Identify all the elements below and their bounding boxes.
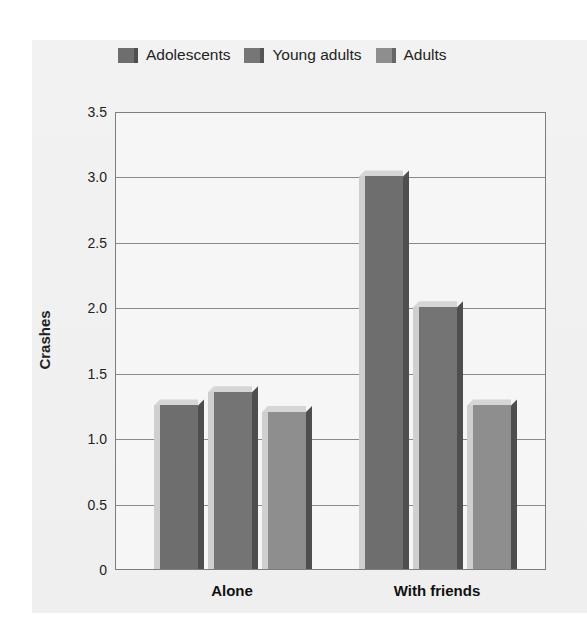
legend-swatch-icon bbox=[244, 48, 264, 63]
y-axis-label: Crashes bbox=[36, 310, 53, 369]
legend: Adolescents Young adults Adults bbox=[118, 43, 447, 67]
gridline bbox=[116, 308, 545, 309]
y-tick-label: 0 bbox=[67, 562, 107, 578]
bar-alone-young-adults bbox=[208, 386, 258, 569]
legend-label: Adults bbox=[404, 46, 447, 64]
bar-face bbox=[160, 405, 198, 569]
y-tick-label: 1.0 bbox=[67, 431, 107, 447]
y-tick-label: 1.5 bbox=[67, 366, 107, 382]
legend-item-adolescents: Adolescents bbox=[118, 46, 230, 64]
bar-with-friends-adolescents bbox=[359, 170, 409, 569]
bar-face bbox=[268, 412, 306, 569]
legend-label: Adolescents bbox=[146, 46, 230, 64]
legend-swatch-icon bbox=[118, 48, 138, 63]
bar-with-friends-adults bbox=[467, 399, 517, 569]
legend-label: Young adults bbox=[272, 46, 361, 64]
x-tick-label: With friends bbox=[394, 582, 481, 599]
y-tick-label: 3.5 bbox=[67, 104, 107, 120]
bar-side bbox=[457, 301, 463, 569]
bar-face bbox=[365, 176, 403, 569]
x-tick-label: Alone bbox=[211, 582, 253, 599]
legend-item-young-adults: Young adults bbox=[244, 46, 361, 64]
bar-side bbox=[252, 386, 258, 569]
bar-face bbox=[419, 307, 457, 569]
legend-swatch-icon bbox=[376, 48, 396, 63]
y-tick-label: 0.5 bbox=[67, 497, 107, 513]
y-tick-label: 2.5 bbox=[67, 235, 107, 251]
bar-side bbox=[306, 406, 312, 569]
bar-with-friends-young-adults bbox=[413, 301, 463, 569]
bar-side bbox=[198, 399, 204, 569]
gridline bbox=[116, 177, 545, 178]
plot-area bbox=[115, 112, 546, 570]
gridline bbox=[116, 374, 545, 375]
bar-alone-adults bbox=[262, 406, 312, 569]
bar-side bbox=[403, 170, 409, 569]
bar-alone-adolescents bbox=[154, 399, 204, 569]
y-tick-label: 3.0 bbox=[67, 169, 107, 185]
bar-face bbox=[214, 392, 252, 569]
bar-side bbox=[511, 399, 517, 569]
y-tick-label: 2.0 bbox=[67, 300, 107, 316]
gridline bbox=[116, 243, 545, 244]
bar-face bbox=[473, 405, 511, 569]
legend-item-adults: Adults bbox=[376, 46, 447, 64]
